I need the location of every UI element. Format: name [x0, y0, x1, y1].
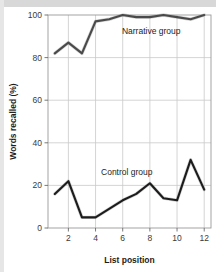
x-tick-label-8: 8 — [148, 233, 153, 243]
y-tick-label-0: 0 — [37, 223, 42, 233]
x-axis-title: List position — [104, 255, 155, 265]
x-tick-label-10: 10 — [172, 233, 182, 243]
series-annotation-narrative-group: Narrative group — [122, 26, 181, 36]
y-tick-label-80: 80 — [33, 53, 43, 63]
series-annotation-control-group: Control group — [101, 167, 153, 177]
chart-figure: 020406080100 24681012 Narrative group Co… — [0, 0, 216, 272]
left-decor-band — [0, 0, 4, 272]
y-tick-label-60: 60 — [33, 95, 43, 105]
x-tick-label-12: 12 — [199, 233, 209, 243]
y-tick-label-100: 100 — [28, 10, 42, 20]
line-chart: 020406080100 24681012 Narrative group Co… — [0, 0, 216, 272]
x-tick-label-6: 6 — [120, 233, 125, 243]
y-axis-title: Words recalled (%) — [8, 83, 18, 160]
x-tick-label-4: 4 — [93, 233, 98, 243]
x-tick-label-2: 2 — [66, 233, 71, 243]
y-tick-label-20: 20 — [33, 180, 43, 190]
x-axis-ticks: 24681012 — [66, 228, 209, 243]
y-axis-ticks: 020406080100 — [28, 10, 48, 233]
top-decor-band — [0, 0, 216, 7]
y-tick-label-40: 40 — [33, 138, 43, 148]
